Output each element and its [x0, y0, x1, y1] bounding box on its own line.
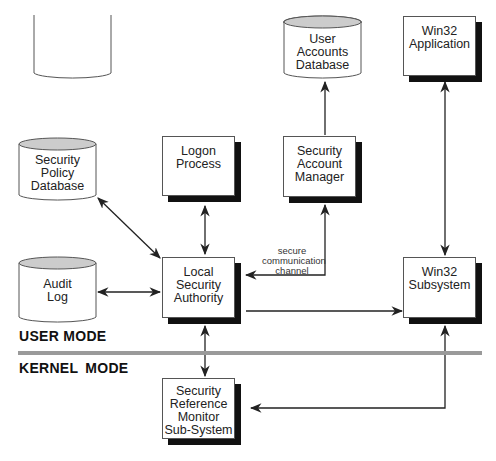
audit-log-label: Audit Log: [19, 278, 96, 304]
security-architecture-diagram: User Accounts Database Security Policy D…: [0, 0, 496, 461]
security-policy-database-label: Security Policy Database: [19, 154, 96, 193]
kernel-mode-label: KERNEL MODE: [19, 360, 129, 376]
secure-channel-label: secure communication channel: [262, 246, 322, 276]
user-mode-label: USER MODE: [19, 328, 107, 344]
security-reference-monitor-box: Security Reference Monitor Sub-System: [162, 378, 235, 439]
security-account-manager-box: Security Account Manager: [283, 136, 356, 197]
local-security-authority-box: Local Security Authority: [162, 257, 235, 318]
win32-application-box: Win32 Application: [403, 16, 476, 76]
win32-subsystem-box: Win32 Subsystem: [403, 257, 476, 318]
mode-divider: [18, 351, 482, 355]
logon-process-box: Logon Process: [162, 136, 235, 196]
audit-log-database: Audit Log: [19, 275, 96, 315]
user-accounts-database: User Accounts Database: [284, 30, 361, 80]
user-accounts-database-label: User Accounts Database: [284, 33, 361, 72]
security-policy-database: Security Policy Database: [19, 152, 96, 202]
